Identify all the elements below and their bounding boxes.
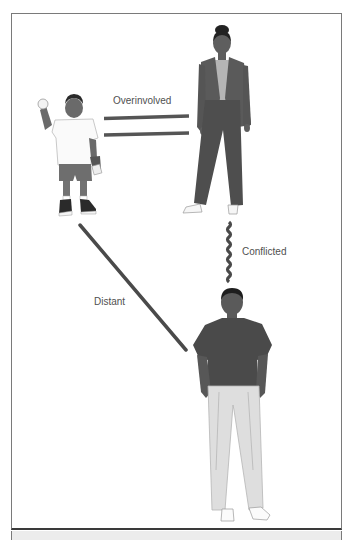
mother-figure (183, 25, 251, 214)
relationship-diagram (0, 0, 354, 540)
father-figure (193, 288, 272, 521)
overinvolved-line (104, 116, 189, 135)
conflicted-label: Conflicted (242, 246, 286, 257)
conflicted-line (228, 222, 231, 282)
child-figure (38, 94, 102, 216)
distant-line (80, 225, 186, 350)
overinvolved-label: Overinvolved (113, 95, 171, 106)
distant-label: Distant (94, 296, 125, 307)
